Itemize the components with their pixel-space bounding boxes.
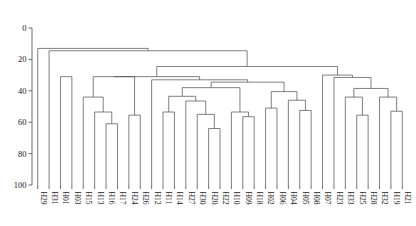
dendrogram-link: [357, 115, 368, 185]
leaf-label: H04: [289, 192, 298, 205]
dendrogram-link: [157, 66, 338, 76]
dendrogram-link: [266, 108, 277, 185]
leaf-label: H06: [278, 192, 287, 205]
dendrogram-link: [271, 92, 297, 108]
leaf-label: H18: [255, 192, 264, 205]
leaf-label: H29: [39, 192, 48, 205]
dendrogram-link: [209, 128, 220, 185]
leaf-label: H25: [358, 192, 367, 205]
leaf-label: H02: [266, 192, 275, 205]
dendrogram-link: [182, 88, 240, 112]
leaf-label: H27: [187, 192, 196, 205]
leaf-label: H11: [164, 192, 173, 205]
dendrogram-canvas: 020406080100H29H31H01H03H15H13H16H17H24H…: [0, 0, 416, 226]
dendrogram-link: [345, 97, 362, 185]
leaf-label: H01: [61, 192, 70, 205]
leaf-label: H07: [323, 192, 332, 205]
dendrogram-link: [186, 101, 206, 185]
y-axis-tick-label: 0: [22, 23, 26, 33]
dendrogram-figure: 020406080100H29H31H01H03H15H13H16H17H24H…: [0, 0, 416, 226]
dendrogram-link: [334, 77, 371, 185]
dendrogram-link: [354, 88, 388, 97]
dendrogram-link: [231, 112, 248, 185]
dendrogram-link: [95, 112, 112, 185]
dendrogram-link: [243, 117, 254, 185]
leaf-label: H30: [198, 192, 207, 205]
dendrogram-link: [49, 51, 247, 185]
leaf-label: H17: [118, 192, 127, 205]
dendrogram-link: [93, 77, 134, 115]
dendrogram-link: [197, 114, 214, 185]
dendrogram-link: [83, 97, 103, 185]
dendrogram-link: [106, 124, 117, 185]
dendrogram-link: [129, 115, 140, 185]
dendrogram-link: [380, 97, 397, 185]
leaf-label: H05: [301, 192, 310, 205]
dendrogram-link: [391, 111, 402, 185]
leaf-label: H10: [232, 192, 241, 205]
leaf-label: H13: [96, 192, 105, 205]
leaf-label: H12: [153, 192, 162, 205]
leaf-label: H24: [130, 192, 139, 205]
dendrogram-link: [211, 82, 284, 91]
dendrogram-link: [38, 48, 148, 185]
leaf-label: H21: [403, 192, 412, 205]
dendrogram-link: [323, 75, 353, 185]
dendrogram-link: [152, 80, 248, 185]
leaf-label: H14: [175, 192, 184, 205]
dendrogram-link: [114, 77, 200, 80]
y-axis-tick-label: 20: [18, 54, 27, 64]
leaf-label: H31: [50, 192, 59, 205]
leaf-label: H15: [84, 192, 93, 205]
leaf-label: H20: [210, 192, 219, 205]
leaf-label: H32: [380, 192, 389, 205]
leaf-label: H26: [141, 192, 150, 205]
dendrogram-link: [300, 110, 311, 185]
leaf-label: H08: [312, 192, 321, 205]
leaf-label: H23: [335, 192, 344, 205]
leaf-label: H22: [221, 192, 230, 205]
leaf-label: H16: [107, 192, 116, 205]
dendrogram-link: [163, 112, 174, 185]
leaf-label: H03: [73, 192, 82, 205]
dendrogram-link: [288, 100, 305, 185]
leaf-label: H19: [392, 192, 401, 205]
y-axis-tick-label: 80: [18, 149, 27, 159]
leaf-label: H33: [346, 192, 355, 205]
leaf-label: H09: [244, 192, 253, 205]
leaf-label: H28: [369, 192, 378, 205]
y-axis-tick-label: 40: [18, 86, 27, 96]
y-axis-tick-label: 100: [14, 180, 27, 190]
y-axis-tick-label: 60: [18, 117, 27, 127]
dendrogram-link: [169, 96, 196, 112]
dendrogram-link: [60, 77, 71, 185]
